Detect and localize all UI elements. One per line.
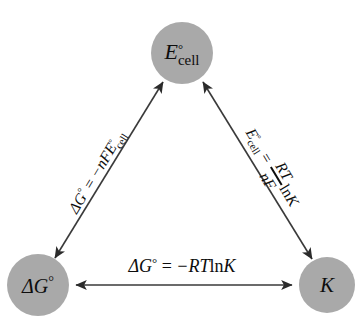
node-subscript-e: cell (178, 53, 200, 66)
edge-bottom-equals: = (157, 256, 176, 276)
node-symbol-k: K (320, 273, 334, 297)
edge-bottom-log: ln (210, 256, 224, 276)
node-affix-e-cell: °cell (178, 43, 200, 66)
node-label-e-cell: E°cell (164, 41, 199, 66)
edge-line-left (55, 82, 163, 258)
node-label-k: K (320, 275, 334, 296)
edge-bottom-lhs: ΔG (128, 256, 152, 276)
edge-bottom-rhs: −RT (176, 256, 209, 276)
edge-bottom-log-arg: K (224, 256, 236, 276)
diagram-canvas: E°cell ΔG° K ΔG° = −RTlnK ΔG° = −nFE°cel… (0, 0, 363, 324)
edge-label-bottom: ΔG° = −RTlnK (128, 257, 235, 275)
node-symbol-delta-g: ΔG (22, 275, 48, 297)
node-symbol-e: E (164, 39, 177, 64)
node-superscript-delta-g: ° (48, 273, 54, 289)
node-label-delta-g: ΔG° (22, 274, 54, 295)
